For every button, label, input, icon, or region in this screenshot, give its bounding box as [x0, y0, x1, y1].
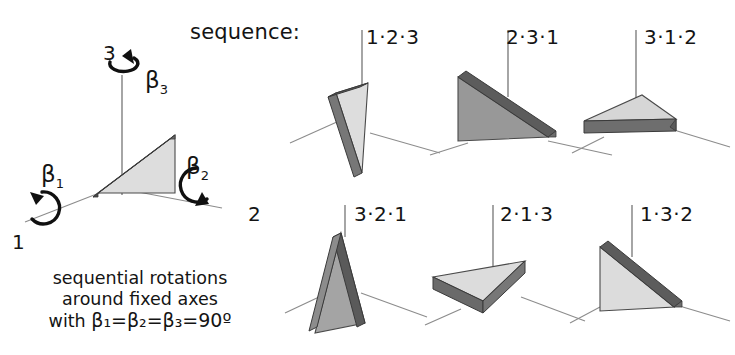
wedge [600, 241, 682, 311]
caption-line-1: sequential rotations [0, 268, 280, 289]
axis-label-2: 2 [248, 204, 261, 224]
wedge-side-front [584, 119, 676, 133]
panel-label-1-2-3: 1·2·3 [366, 27, 419, 47]
figure-caption: sequential rotations around fixed axes w… [0, 268, 280, 332]
caption-formula-prefix: with [49, 311, 92, 331]
wedge [584, 95, 676, 133]
reference-wedge [93, 135, 175, 197]
axis-label-1: 1 [12, 232, 25, 252]
beta-3-subscript: 3 [160, 82, 168, 97]
axis-2-line [674, 130, 730, 147]
beta-3-label: β3 [145, 69, 168, 96]
panel-1-2-3-graphic [290, 25, 450, 195]
panel-label-3-2-1: 3·2·1 [354, 204, 407, 224]
wedge [433, 261, 525, 313]
panel-label-1-3-2: 1·3·2 [640, 204, 693, 224]
axis-label-3: 3 [103, 43, 116, 63]
rotation-arrow-1-head [30, 192, 44, 205]
caption-line-2: around fixed axes [0, 289, 280, 310]
beta-1-symbol: β [41, 161, 56, 187]
sequence-heading: sequence: [190, 22, 300, 43]
rotation-arrow-3-head [122, 49, 134, 64]
axis-1-line [572, 137, 604, 153]
wedge [328, 83, 368, 177]
beta-2-label: β2 [186, 155, 209, 182]
beta-2-symbol: β [186, 153, 201, 179]
wedge [309, 233, 365, 333]
rotation-arrow-1 [30, 192, 60, 224]
beta-2-subscript: 2 [201, 168, 209, 183]
axis-2-line [361, 293, 427, 317]
panel-label-2-3-1: 2·3·1 [506, 27, 559, 47]
panel-label-3-1-2: 3·1·2 [644, 27, 697, 47]
caption-line-3: with β₁=β₂=β₃=90º [0, 309, 280, 332]
axis-1-line [425, 309, 461, 325]
beta-1-subscript: 1 [56, 176, 64, 191]
wedge-face-top [584, 95, 676, 121]
caption-formula: β₁=β₂=β₃=90º [91, 309, 231, 331]
panel-label-2-1-3: 2·1·3 [500, 204, 553, 224]
axis-1-line [430, 143, 468, 155]
panel-3-1-2-graphic [570, 25, 735, 195]
beta-3-symbol: β [145, 67, 160, 93]
axis-2-line [676, 305, 730, 321]
axis-1-line [570, 307, 600, 323]
wedge [458, 71, 556, 141]
wedge-bevel-tip [170, 135, 175, 139]
beta-1-label: β1 [41, 163, 64, 190]
